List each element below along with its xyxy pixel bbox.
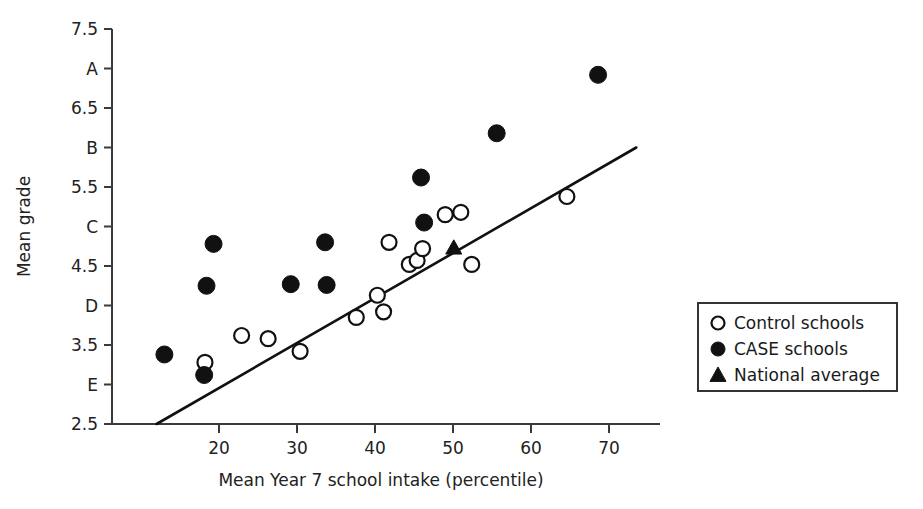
data-point-control [234,328,249,343]
scatter-plot-svg: 7.5A6.5B5.5C4.5D3.5E2.5 203040506070 Mea… [0,0,923,509]
data-point-case [198,277,215,294]
y-tick-label: 5.5 [71,177,98,197]
y-tick-label: 2.5 [71,414,98,434]
y-tick-label: D [85,296,98,316]
data-point-case [413,169,430,186]
x-axis: 203040506070 [112,424,660,458]
data-point-case [590,66,607,83]
x-tick-label: 70 [598,438,620,458]
x-tick-label: 30 [286,438,308,458]
data-point-control [261,331,276,346]
x-tick-label: 50 [442,438,464,458]
data-point-case [205,235,222,252]
data-point-control [370,288,385,303]
x-axis-title: Mean Year 7 school intake (percentile) [218,470,543,490]
y-tick-label: 4.5 [71,256,98,276]
data-point-control [559,189,574,204]
y-tick-label: A [86,59,98,79]
data-point-control [376,304,391,319]
y-tick-label: B [86,138,98,158]
y-tick-label: C [86,217,98,237]
y-axis-title: Mean grade [14,176,34,277]
legend-label: Control schools [734,313,864,333]
legend-label: National average [734,365,880,385]
data-point-control [453,205,468,220]
data-point-control [415,241,430,256]
x-tick-label: 40 [364,438,386,458]
data-point-national-average [446,240,462,254]
data-point-case [416,214,433,231]
y-axis: 7.5A6.5B5.5C4.5D3.5E2.5 [71,19,112,434]
data-points [156,66,607,383]
data-point-case [196,367,213,384]
data-point-control [382,235,397,250]
y-tick-label: 6.5 [71,98,98,118]
data-point-case [282,276,299,293]
data-point-control [349,310,364,325]
data-point-case [156,346,173,363]
y-tick-label: 7.5 [71,19,98,39]
y-tick-label: 3.5 [71,335,98,355]
data-point-case [488,125,505,142]
x-tick-label: 20 [208,438,230,458]
data-point-case [318,276,335,293]
legend-filled-circle-icon [711,342,725,356]
legend-label: CASE schools [734,339,848,359]
legend[interactable]: Control schoolsCASE schoolsNational aver… [698,303,897,391]
chart-figure: 7.5A6.5B5.5C4.5D3.5E2.5 203040506070 Mea… [0,0,923,509]
data-point-control [293,344,308,359]
data-point-case [317,234,334,251]
data-point-control [464,257,479,272]
data-point-control [438,207,453,222]
y-tick-label: E [87,375,98,395]
x-tick-label: 60 [520,438,542,458]
legend-open-circle-icon [712,317,725,330]
